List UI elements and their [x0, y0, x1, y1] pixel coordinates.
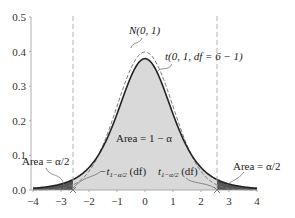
y-tick-label: 0.2 — [12, 115, 26, 127]
y-tick-label: 0.4 — [12, 46, 26, 58]
x-tick-label: 0 — [142, 195, 148, 207]
t-distribution-chart: 0.00.10.20.30.40.5−4−3−2−101234 N(0, 1) … — [0, 0, 295, 218]
y-tick-label: 0.5 — [12, 11, 26, 23]
x-tick-label: −1 — [111, 195, 123, 207]
normal-leader-line — [131, 38, 142, 48]
x-tick-label: −4 — [27, 195, 39, 207]
right-crit-sub: 1−α/2 — [161, 171, 179, 179]
right-tail-area-label: Area = α/2 — [233, 160, 280, 172]
t-label: t(0, 1, df = 6 − 1) — [165, 50, 243, 63]
normal-label: N(0, 1) — [128, 24, 161, 37]
left-tail-area-label: Area = α/2 — [22, 155, 69, 167]
x-tick-label: 4 — [254, 195, 260, 207]
x-tick-label: 3 — [226, 195, 232, 207]
right-tail-leader-line — [226, 172, 244, 186]
center-area-label: Area = 1 − α — [116, 132, 172, 144]
x-tick-label: 2 — [198, 195, 204, 207]
right-crit-suffix: (df) — [178, 165, 198, 178]
left-crit-suffix: (df) — [127, 165, 147, 178]
y-tick-label: 0.3 — [12, 80, 26, 92]
x-tick-label: −2 — [83, 195, 95, 207]
x-tick-label: 1 — [170, 195, 176, 207]
y-tick-label: 0.0 — [12, 184, 26, 196]
x-tick-label: −3 — [55, 195, 67, 207]
left-crit-sub: 1−α/2 — [109, 171, 127, 179]
